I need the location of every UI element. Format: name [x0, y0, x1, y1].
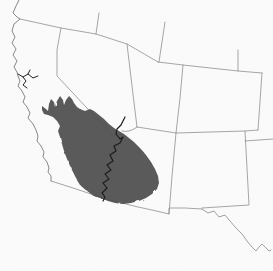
range-map-figure	[0, 0, 273, 271]
map-canvas	[0, 0, 273, 271]
paper-grain-texture	[0, 0, 273, 271]
